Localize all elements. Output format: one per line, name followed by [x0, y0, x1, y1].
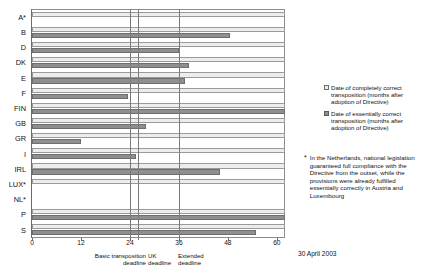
- bar-completely-correct: [32, 42, 285, 47]
- legend-swatch-completely-correct-icon: [324, 85, 329, 90]
- bar-completely-correct: [32, 133, 285, 138]
- bar-row: [32, 223, 285, 238]
- date-stamp: 30 April 2003: [298, 250, 337, 257]
- footnote-marker: *: [304, 154, 307, 200]
- bar-row: [32, 162, 285, 177]
- category-label: E: [0, 71, 28, 86]
- extended-deadline-caption: Extended deadline: [178, 252, 204, 266]
- bar-completely-correct: [32, 57, 285, 62]
- bar-essentially-correct: [32, 94, 128, 99]
- category-label: A*: [0, 10, 28, 25]
- bar-row: [32, 177, 285, 192]
- legend-swatch-essentially-correct-icon: [324, 111, 329, 116]
- bar-essentially-correct: [32, 78, 185, 83]
- category-label: GR: [0, 132, 28, 147]
- category-axis-labels: A* B D DK E F FIN GB GR I IRL LUX* NL* P…: [0, 10, 28, 238]
- legend-item[interactable]: Date of completely correct transposition…: [324, 84, 424, 105]
- footnote-text: In the Netherlands, national legislation…: [310, 154, 422, 200]
- x-axis-tick-mark: [228, 238, 229, 241]
- category-label: IRL: [0, 162, 28, 177]
- category-label: I: [0, 147, 28, 162]
- category-label: DK: [0, 56, 28, 71]
- bar-essentially-correct: [32, 169, 220, 174]
- bar-completely-correct: [32, 179, 285, 184]
- x-axis-tick-mark: [130, 238, 131, 241]
- bar-completely-correct: [32, 12, 285, 17]
- bar-essentially-correct: [32, 48, 179, 53]
- uk-deadline-caption: UK deadline: [148, 252, 171, 266]
- legend-item[interactable]: Date of essentially correct transpositio…: [324, 110, 424, 131]
- x-axis-tick-mark: [81, 238, 82, 241]
- bar-essentially-correct: [32, 33, 230, 38]
- bar-essentially-correct: [32, 63, 189, 68]
- bar-row: [32, 25, 285, 40]
- bar-row: [32, 86, 285, 101]
- bar-rows: [32, 10, 285, 238]
- bar-completely-correct: [32, 209, 285, 214]
- x-axis-tick-mark: [32, 238, 33, 241]
- bar-row: [32, 10, 285, 25]
- bar-essentially-correct: [32, 154, 136, 159]
- category-label: S: [0, 223, 28, 238]
- bar-row: [32, 132, 285, 147]
- x-axis-tick-mark: [179, 238, 180, 241]
- bar-row: [32, 192, 285, 207]
- bar-essentially-correct: [32, 139, 81, 144]
- bar-row: [32, 40, 285, 55]
- category-label: LUX*: [0, 177, 28, 192]
- bar-completely-correct: [32, 27, 285, 32]
- chart-container: A* B D DK E F FIN GB GR I IRL LUX* NL* P…: [0, 0, 427, 276]
- bar-completely-correct: [32, 118, 285, 123]
- category-label: D: [0, 40, 28, 55]
- footnote: * In the Netherlands, national legislati…: [304, 154, 422, 200]
- chart-legend: Date of completely correct transposition…: [324, 84, 424, 137]
- bar-row: [32, 56, 285, 71]
- category-label: B: [0, 25, 28, 40]
- gridline-extended-deadline: [179, 9, 180, 240]
- category-label: NL*: [0, 192, 28, 207]
- bar-row: [32, 207, 285, 222]
- basic-deadline-caption: Basic transposition deadline: [78, 252, 146, 266]
- bar-completely-correct: [32, 88, 285, 93]
- legend-label: Date of completely correct transposition…: [331, 84, 424, 105]
- category-label: FIN: [0, 101, 28, 116]
- bar-row: [32, 101, 285, 116]
- x-axis-tick-labels: 01224364860: [0, 239, 427, 251]
- bar-completely-correct: [32, 148, 285, 153]
- bar-row: [32, 147, 285, 162]
- gridline-uk-deadline: [138, 9, 139, 240]
- bar-row: [32, 116, 285, 131]
- category-label: GB: [0, 116, 28, 131]
- bar-completely-correct: [32, 163, 285, 168]
- x-axis-tick-mark: [277, 238, 278, 241]
- bar-completely-correct: [32, 72, 285, 77]
- legend-label: Date of essentially correct transpositio…: [331, 110, 424, 131]
- category-label: F: [0, 86, 28, 101]
- bar-essentially-correct: [32, 230, 256, 235]
- bar-essentially-correct: [32, 109, 285, 114]
- category-label: P: [0, 207, 28, 222]
- gridline-basic-deadline: [130, 9, 131, 240]
- bar-completely-correct: [32, 224, 285, 229]
- bar-row: [32, 71, 285, 86]
- bar-completely-correct: [32, 103, 285, 108]
- bar-essentially-correct: [32, 215, 285, 220]
